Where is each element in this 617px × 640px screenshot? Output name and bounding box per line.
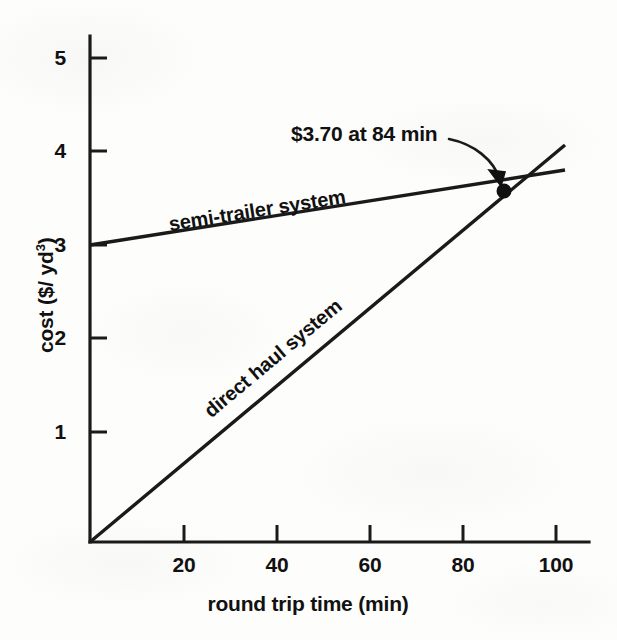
y-axis-title: cost ($/ yd3)	[34, 238, 58, 354]
y-tick-label-1: 1	[55, 420, 66, 444]
annotation-arrow-head	[489, 170, 505, 186]
y-tick-label-5: 5	[55, 46, 66, 70]
x-tick-marks	[184, 525, 556, 542]
x-axis-title: round trip time (min)	[207, 592, 408, 616]
chart-figure: 5 4 3 2 1 20 40 60 80 100 round trip tim…	[0, 0, 617, 640]
breakeven-point-marker	[497, 184, 512, 199]
y-tick-label-4: 4	[55, 139, 66, 163]
y-axis-title-suffix: )	[34, 238, 57, 245]
x-tick-label-100: 100	[539, 553, 573, 577]
y-axis-title-exponent: 3	[33, 244, 48, 251]
x-tick-label-60: 60	[359, 553, 382, 577]
x-tick-label-20: 20	[173, 553, 196, 577]
x-tick-label-80: 80	[452, 553, 475, 577]
x-tick-label-40: 40	[266, 553, 289, 577]
y-axis-title-base: cost ($/ yd	[34, 251, 57, 353]
breakeven-annotation-label: $3.70 at 84 min	[291, 122, 437, 146]
